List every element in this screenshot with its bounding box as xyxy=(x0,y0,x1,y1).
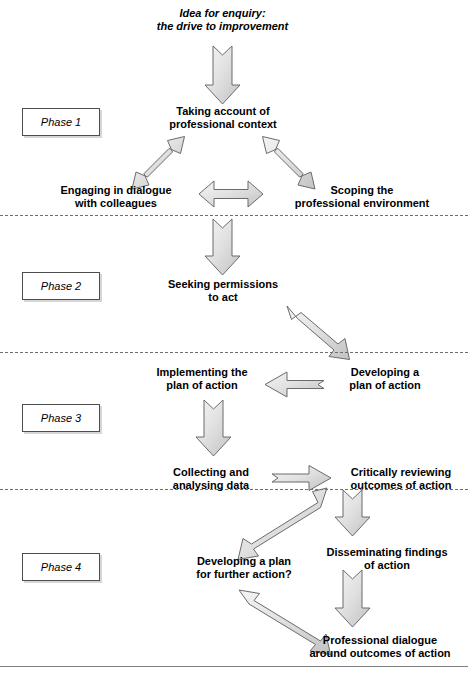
phase-label-4: Phase 4 xyxy=(41,561,81,573)
node-collecting-line2: analysing data xyxy=(152,479,270,492)
node-scoping-environment: Scoping the professional environment xyxy=(272,184,452,210)
arrow-taking-account-to-scoping xyxy=(263,137,316,190)
arrow-idea-to-taking-account xyxy=(205,46,240,104)
divider-phase2-phase3 xyxy=(0,352,468,353)
node-seeking-line2: to act xyxy=(152,291,294,304)
node-developing-plan-line2: plan of action xyxy=(330,379,440,392)
phase-label-2: Phase 2 xyxy=(41,280,81,292)
node-idea-for-enquiry: Idea for enquiry: the drive to improveme… xyxy=(130,7,315,33)
node-taking-account: Taking account of professional context xyxy=(147,105,299,131)
phase-label-1: Phase 1 xyxy=(41,116,81,128)
diagram-baseline xyxy=(0,666,468,667)
node-developing-plan-of-action: Developing a plan of action xyxy=(330,366,440,392)
node-taking-account-line2: professional context xyxy=(147,118,299,131)
arrow-taking-account-to-engaging xyxy=(132,137,185,190)
node-reviewing-line1: Critically reviewing xyxy=(334,466,468,479)
node-further-action-line1: Developing a plan xyxy=(176,555,312,568)
phase-box-4: Phase 4 xyxy=(22,553,100,581)
node-reviewing-line2: outcomes of action xyxy=(334,479,468,492)
node-collecting-analysing-data: Collecting and analysing data xyxy=(152,466,270,492)
arrow-engaging-to-scoping xyxy=(199,181,263,207)
node-seeking-line1: Seeking permissions xyxy=(152,278,294,291)
node-further-action-line2: for further action? xyxy=(176,568,312,581)
node-prof-dialogue-line2: around outcomes of action xyxy=(296,647,464,660)
node-engaging-in-dialogue: Engaging in dialogue with colleagues xyxy=(38,184,194,210)
phase-box-2: Phase 2 xyxy=(22,272,100,300)
arrow-collecting-to-reviewing xyxy=(272,466,331,491)
arrow-reviewing-to-disseminating xyxy=(335,490,370,536)
node-idea-line1: Idea for enquiry: xyxy=(130,7,315,20)
node-collecting-line1: Collecting and xyxy=(152,466,270,479)
arrow-implementing-to-collecting xyxy=(196,400,231,456)
node-scoping-line2: professional environment xyxy=(272,197,452,210)
node-engaging-line1: Engaging in dialogue xyxy=(38,184,194,197)
node-disseminating-line1: Disseminating findings xyxy=(316,546,458,559)
node-developing-plan-further-action: Developing a plan for further action? xyxy=(176,555,312,581)
node-idea-line2: the drive to improvement xyxy=(130,20,315,33)
node-critically-reviewing: Critically reviewing outcomes of action xyxy=(334,466,468,492)
phase-box-3: Phase 3 xyxy=(22,404,100,432)
node-implementing-line1: Implementing the xyxy=(139,366,265,379)
node-disseminating-line2: of action xyxy=(316,559,458,572)
node-seeking-permissions: Seeking permissions to act xyxy=(152,278,294,304)
phase-box-1: Phase 1 xyxy=(22,108,100,136)
node-developing-plan-line1: Developing a xyxy=(330,366,440,379)
node-engaging-line2: with colleagues xyxy=(38,197,194,210)
arrow-developing-to-implementing xyxy=(265,372,324,397)
arrow-phase1-to-seeking xyxy=(205,219,240,275)
node-implementing-plan: Implementing the plan of action xyxy=(139,366,265,392)
flowchart-diagram: Phase 1 Phase 2 Phase 3 Phase 4 Idea for… xyxy=(0,0,468,677)
node-disseminating-findings: Disseminating findings of action xyxy=(316,546,458,572)
phase-label-3: Phase 3 xyxy=(41,412,81,424)
node-implementing-line2: plan of action xyxy=(139,379,265,392)
divider-phase1-phase2 xyxy=(0,215,468,216)
node-taking-account-line1: Taking account of xyxy=(147,105,299,118)
node-professional-dialogue: Professional dialogue around outcomes of… xyxy=(296,634,464,660)
arrow-disseminating-to-prof-dialogue xyxy=(335,570,370,627)
node-scoping-line1: Scoping the xyxy=(272,184,452,197)
arrow-reviewing-to-further-action xyxy=(238,488,327,560)
node-prof-dialogue-line1: Professional dialogue xyxy=(296,634,464,647)
